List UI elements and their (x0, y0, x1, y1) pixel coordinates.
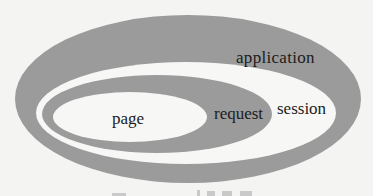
request-label: request (214, 104, 263, 123)
application-label: application (236, 48, 315, 67)
caption-fragment (112, 190, 252, 196)
page-label: page (112, 109, 144, 128)
scope-diagram: application session request page (0, 0, 373, 196)
session-label: session (277, 99, 327, 118)
